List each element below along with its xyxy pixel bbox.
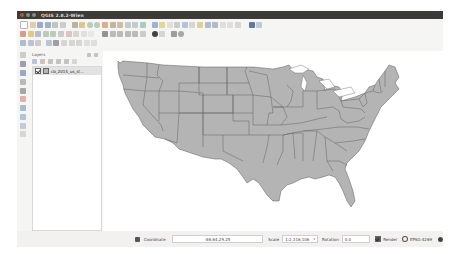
add-feature-icon[interactable] bbox=[43, 31, 49, 37]
cut-features-icon[interactable] bbox=[73, 31, 79, 37]
label-icon[interactable] bbox=[102, 31, 108, 37]
remove-layer-icon[interactable] bbox=[72, 59, 77, 64]
measure-icon[interactable] bbox=[189, 22, 195, 28]
close-panel-icon[interactable] bbox=[94, 53, 98, 57]
text-annotation-icon[interactable] bbox=[220, 22, 226, 28]
layers-tree: cb_2014_us_st... bbox=[32, 66, 102, 231]
select-icon[interactable] bbox=[159, 22, 165, 28]
layers-panel: Layers cb_2014_us_st... bbox=[30, 51, 102, 231]
save-as-icon[interactable] bbox=[45, 22, 51, 28]
expand-all-icon[interactable] bbox=[56, 59, 61, 64]
fill-ring-icon[interactable] bbox=[53, 40, 59, 46]
add-postgis-layer-icon[interactable] bbox=[20, 70, 26, 76]
filter-legend-icon[interactable] bbox=[48, 59, 53, 64]
zoom-to-selection-icon[interactable] bbox=[117, 22, 123, 28]
deselect-icon[interactable] bbox=[167, 22, 173, 28]
delete-selected-icon[interactable] bbox=[66, 31, 72, 37]
zoom-full-icon[interactable] bbox=[102, 22, 108, 28]
python-console-icon[interactable] bbox=[249, 22, 255, 28]
digitize-icon[interactable] bbox=[20, 40, 26, 46]
new-project-icon[interactable] bbox=[20, 21, 28, 29]
map-canvas[interactable] bbox=[103, 51, 443, 231]
refresh-icon[interactable] bbox=[140, 22, 146, 28]
minimize-window-button[interactable] bbox=[26, 13, 30, 17]
toggle-editing-icon[interactable] bbox=[28, 31, 34, 37]
layers-panel-header: Layers bbox=[30, 51, 102, 58]
collapse-all-icon[interactable] bbox=[64, 59, 69, 64]
move-feature-icon[interactable] bbox=[50, 31, 56, 37]
split-features-icon[interactable] bbox=[91, 40, 97, 46]
save-edits-icon[interactable] bbox=[35, 31, 41, 37]
show-labels-icon[interactable] bbox=[117, 31, 123, 37]
add-ring-icon[interactable] bbox=[35, 40, 41, 46]
zoom-last-icon[interactable] bbox=[125, 22, 131, 28]
layers-panel-title: Layers bbox=[32, 52, 45, 57]
zoom-to-layer-icon[interactable] bbox=[110, 22, 116, 28]
move-label-icon[interactable] bbox=[125, 31, 131, 37]
log-messages-icon[interactable] bbox=[438, 237, 443, 242]
layer-item[interactable]: cb_2014_us_st... bbox=[33, 67, 101, 75]
close-window-button[interactable] bbox=[20, 13, 24, 17]
pan-icon[interactable] bbox=[72, 22, 78, 28]
layer-visibility-checkbox[interactable] bbox=[35, 68, 41, 74]
help-icon[interactable] bbox=[227, 22, 233, 28]
settings-icon[interactable] bbox=[178, 31, 184, 37]
add-wcs-layer-icon[interactable] bbox=[20, 114, 26, 120]
zoom-out-icon[interactable] bbox=[94, 22, 100, 28]
composer-manager-icon[interactable] bbox=[60, 22, 66, 28]
new-bookmark-icon[interactable] bbox=[205, 22, 211, 28]
grass-icon[interactable] bbox=[171, 31, 177, 37]
render-label: Render bbox=[383, 237, 397, 242]
manage-visibility-icon[interactable] bbox=[40, 59, 45, 64]
window-title: QGIS 2.8.2-Wien bbox=[41, 13, 84, 18]
float-panel-icon[interactable] bbox=[87, 53, 91, 57]
add-group-icon[interactable] bbox=[32, 59, 37, 64]
attribute-table-icon[interactable] bbox=[182, 22, 188, 28]
add-oracle-layer-icon[interactable] bbox=[20, 96, 26, 102]
processing-icon[interactable] bbox=[256, 22, 262, 28]
rotate-label-icon[interactable] bbox=[132, 31, 138, 37]
reshape-icon[interactable] bbox=[76, 40, 82, 46]
add-vector-layer-icon[interactable] bbox=[20, 52, 26, 58]
scale-combobox[interactable]: 1:2,316,106 ▾ bbox=[282, 235, 318, 243]
zoom-in-icon[interactable] bbox=[87, 22, 93, 28]
add-part-icon[interactable] bbox=[46, 40, 52, 46]
toolbar-row-2 bbox=[17, 29, 186, 38]
offset-curve-icon[interactable] bbox=[84, 40, 90, 46]
copy-features-icon[interactable] bbox=[81, 31, 87, 37]
delete-ring-icon[interactable] bbox=[61, 40, 67, 46]
delete-part-icon[interactable] bbox=[69, 40, 75, 46]
crs-label[interactable]: EPSG:4269 bbox=[410, 237, 432, 242]
new-shapefile-icon[interactable] bbox=[20, 131, 26, 137]
add-spatialite-layer-icon[interactable] bbox=[20, 79, 26, 85]
add-mssql-layer-icon[interactable] bbox=[20, 88, 26, 94]
print-composer-icon[interactable] bbox=[52, 22, 58, 28]
pin-labels-icon[interactable] bbox=[110, 31, 116, 37]
styling-icon[interactable] bbox=[152, 31, 158, 37]
identify-icon[interactable] bbox=[152, 22, 158, 28]
open-project-icon[interactable] bbox=[30, 22, 36, 28]
messages-icon[interactable] bbox=[135, 237, 140, 242]
zoom-next-icon[interactable] bbox=[132, 22, 138, 28]
add-raster-layer-icon[interactable] bbox=[20, 61, 26, 67]
maximize-window-button[interactable] bbox=[32, 13, 36, 17]
simplify-icon[interactable] bbox=[28, 40, 34, 46]
coordinate-field[interactable]: -86.64,29.25 bbox=[172, 235, 264, 243]
plugin-icon[interactable] bbox=[235, 22, 241, 28]
add-wfs-layer-icon[interactable] bbox=[20, 123, 26, 129]
current-edits-icon[interactable] bbox=[20, 31, 26, 37]
map-tips-icon[interactable] bbox=[197, 22, 203, 28]
rotation-spinbox[interactable]: 0.0 bbox=[342, 235, 370, 243]
rotation-value: 0.0 bbox=[345, 237, 351, 242]
field-calculator-icon[interactable] bbox=[174, 22, 180, 28]
render-checkbox[interactable] bbox=[375, 236, 381, 242]
add-wms-layer-icon[interactable] bbox=[20, 105, 26, 111]
paste-features-icon[interactable] bbox=[88, 31, 94, 37]
show-bookmarks-icon[interactable] bbox=[212, 22, 218, 28]
pan-to-selection-icon[interactable] bbox=[79, 22, 85, 28]
crs-globe-icon[interactable] bbox=[402, 236, 408, 242]
change-label-icon[interactable] bbox=[140, 31, 146, 37]
node-tool-icon[interactable] bbox=[58, 31, 64, 37]
save-project-icon[interactable] bbox=[37, 22, 43, 28]
layer-diagram-icon[interactable] bbox=[159, 31, 165, 37]
